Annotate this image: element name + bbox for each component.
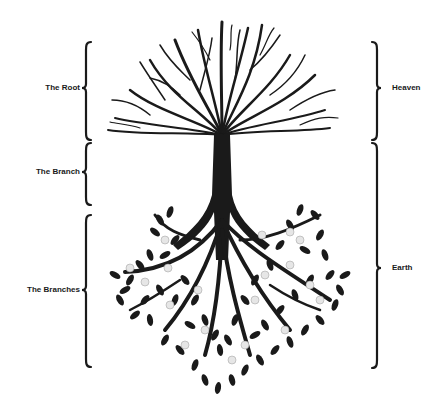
brackets [0,0,443,410]
left-brace-branch [82,143,91,205]
label-the-branches: The Branches [0,285,80,294]
left-brace-root [82,42,91,140]
left-brace-branches [82,215,91,367]
label-earth: Earth [392,263,412,272]
right-brace-heaven [372,42,381,140]
right-brace-earth [372,143,381,368]
label-the-branch: The Branch [0,167,80,176]
label-the-root: The Root [0,83,80,92]
label-heaven: Heaven [392,83,420,92]
